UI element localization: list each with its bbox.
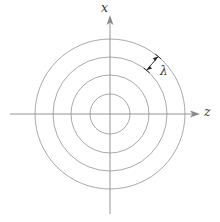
z-axis-label: z bbox=[204, 106, 211, 119]
lambda-label: λ bbox=[160, 65, 168, 77]
horizontal-axis bbox=[10, 111, 200, 118]
figure-canvas bbox=[0, 0, 220, 222]
vertical-axis bbox=[107, 15, 114, 214]
lambda-arrow-end-icon bbox=[153, 57, 159, 62]
wavefront-figure: x z λ bbox=[0, 0, 220, 222]
lambda-arrow-start-icon bbox=[147, 65, 153, 70]
lambda-measure bbox=[144, 54, 162, 73]
x-axis-label: x bbox=[101, 2, 108, 15]
